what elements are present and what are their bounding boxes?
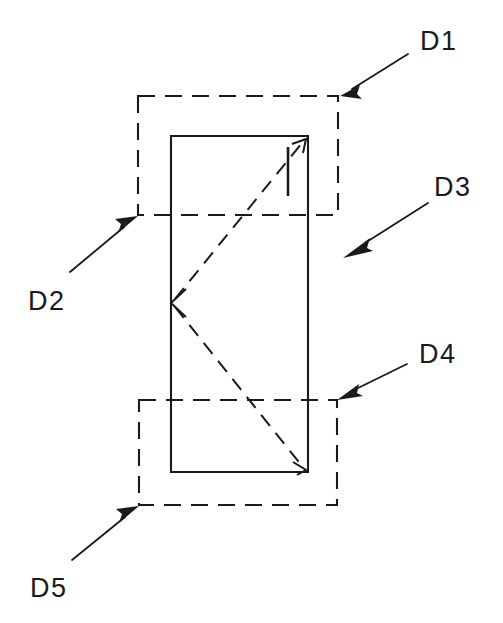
leader-d1 (340, 54, 408, 99)
label-d1: D1 (420, 26, 458, 56)
diagram-canvas: D1 D2 D3 D4 D5 (0, 0, 503, 623)
label-d5: D5 (30, 573, 68, 603)
label-d2: D2 (28, 286, 66, 316)
leader-d5 (72, 506, 139, 560)
leader-d3 (343, 203, 428, 258)
leader-d2 (70, 216, 138, 272)
technical-diagram: D1 D2 D3 D4 D5 (0, 0, 503, 623)
diagonal-lower-dashed-line (175, 307, 306, 475)
leader-d4 (337, 364, 407, 400)
label-d3: D3 (434, 172, 472, 202)
label-d4: D4 (419, 339, 457, 369)
diagonal-upper-dashed-line (175, 139, 306, 299)
